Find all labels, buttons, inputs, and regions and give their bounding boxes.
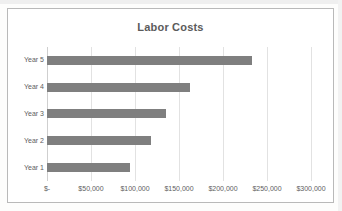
category-label-year-4: Year 4 — [8, 83, 44, 90]
bar-year-2 — [47, 136, 151, 145]
category-label-year-5: Year 5 — [8, 56, 44, 63]
x-axis-tick-labels: $-$50,000$100,000$150,000$200,000$250,00… — [47, 185, 311, 199]
x-tick-label: $150,000 — [164, 185, 193, 192]
bar-year-5 — [47, 56, 252, 65]
x-tick-label: $100,000 — [120, 185, 149, 192]
x-tick-label: $200,000 — [208, 185, 237, 192]
bar-year-3 — [47, 109, 166, 118]
x-tick-label: $- — [44, 185, 50, 192]
chart-frame: Labor Costs $-$50,000$100,000$150,000$20… — [7, 8, 334, 203]
bar-row — [47, 74, 311, 101]
bar-row — [47, 127, 311, 154]
bar-row — [47, 101, 311, 128]
bar-row — [47, 47, 311, 74]
bar-year-4 — [47, 83, 190, 92]
category-label-year-3: Year 3 — [8, 110, 44, 117]
category-label-year-1: Year 1 — [8, 164, 44, 171]
bar-year-1 — [47, 163, 130, 172]
plot-area — [47, 47, 311, 181]
bar-row — [47, 154, 311, 181]
chart-title: Labor Costs — [8, 21, 333, 33]
x-tick-label: $50,000 — [78, 185, 103, 192]
x-tick-label: $300,000 — [296, 185, 325, 192]
category-label-year-2: Year 2 — [8, 137, 44, 144]
x-tick-label: $250,000 — [252, 185, 281, 192]
scan-edge-top — [0, 0, 342, 4]
gridline-300000 — [311, 47, 312, 181]
scanned-page: Labor Costs $-$50,000$100,000$150,000$20… — [0, 0, 342, 211]
scan-edge-right — [338, 0, 342, 211]
